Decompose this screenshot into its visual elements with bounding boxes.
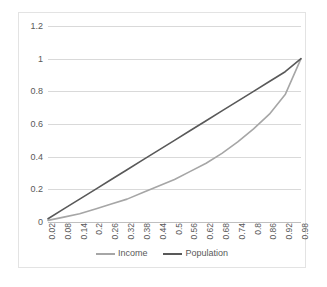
x-axis-tick-label: 0.08 <box>64 223 73 240</box>
x-axis-tick-label: 0.14 <box>80 223 89 240</box>
legend-label: Income <box>118 249 148 258</box>
legend-item-income[interactable]: Income <box>96 249 148 258</box>
x-axis-tick-labels: 0.020.080.140.20.260.320.380.440.50.560.… <box>48 223 301 265</box>
x-axis-tick-label: 0.68 <box>222 223 231 240</box>
x-axis-tick-label: 0.86 <box>269 223 278 240</box>
y-axis-tick-label: 0.2 <box>30 185 43 194</box>
x-axis-tick-label: 0.26 <box>111 223 120 240</box>
series-lines <box>48 26 301 222</box>
x-axis-tick-label: 0.98 <box>301 223 310 240</box>
chart-legend: IncomePopulation <box>19 249 305 258</box>
y-axis-tick-label: 1 <box>38 54 43 63</box>
legend-item-population[interactable]: Population <box>163 249 228 258</box>
x-axis-tick-label: 0.56 <box>190 223 199 240</box>
x-axis-tick-label: 0.74 <box>238 223 247 240</box>
y-axis-tick-label: 1.2 <box>30 22 43 31</box>
x-axis-tick-label: 0.92 <box>285 223 294 240</box>
y-axis-tick-label: 0 <box>38 218 43 227</box>
x-axis-tick-label: 0.2 <box>95 223 104 235</box>
legend-swatch-icon <box>163 253 182 255</box>
legend-label: Population <box>185 249 228 258</box>
x-axis-tick-label: 0.44 <box>159 223 168 240</box>
y-axis-tick-label: 0.6 <box>30 120 43 129</box>
x-axis-tick-label: 0.62 <box>206 223 215 240</box>
x-axis-tick-label: 0.38 <box>143 223 152 240</box>
legend-swatch-icon <box>96 253 115 255</box>
x-axis-tick-label: 0.02 <box>48 223 57 240</box>
x-axis-tick-label: 0.5 <box>175 223 184 235</box>
y-axis-tick-label: 0.8 <box>30 87 43 96</box>
plot-area: 00.20.40.60.811.2 <box>48 26 301 222</box>
chart-container: 00.20.40.60.811.2 0.020.080.140.20.260.3… <box>18 12 306 268</box>
series-line-population <box>48 59 301 219</box>
y-axis-tick-label: 0.4 <box>30 152 43 161</box>
x-axis-tick-label: 0.32 <box>127 223 136 240</box>
x-axis-tick-label: 0.8 <box>254 223 263 235</box>
